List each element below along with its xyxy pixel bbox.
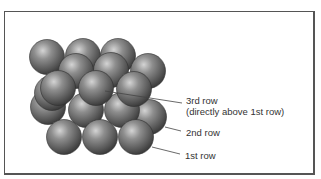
sphere (41, 71, 76, 106)
leader-line-1st-row (152, 147, 180, 154)
label-3rd-row: 3rd row (186, 95, 218, 106)
sphere (47, 120, 82, 155)
label-1st-row: 1st row (185, 150, 216, 161)
sphere (119, 120, 154, 155)
sphere (79, 71, 114, 106)
label-3rd-row-note: (directly above 1st row) (186, 106, 284, 117)
sphere-packing-diagram (0, 0, 321, 179)
leader-line-2nd-row (165, 127, 181, 131)
sphere (83, 120, 118, 155)
spheres-group (30, 39, 167, 155)
sphere (117, 72, 152, 107)
label-2nd-row: 2nd row (186, 127, 220, 138)
